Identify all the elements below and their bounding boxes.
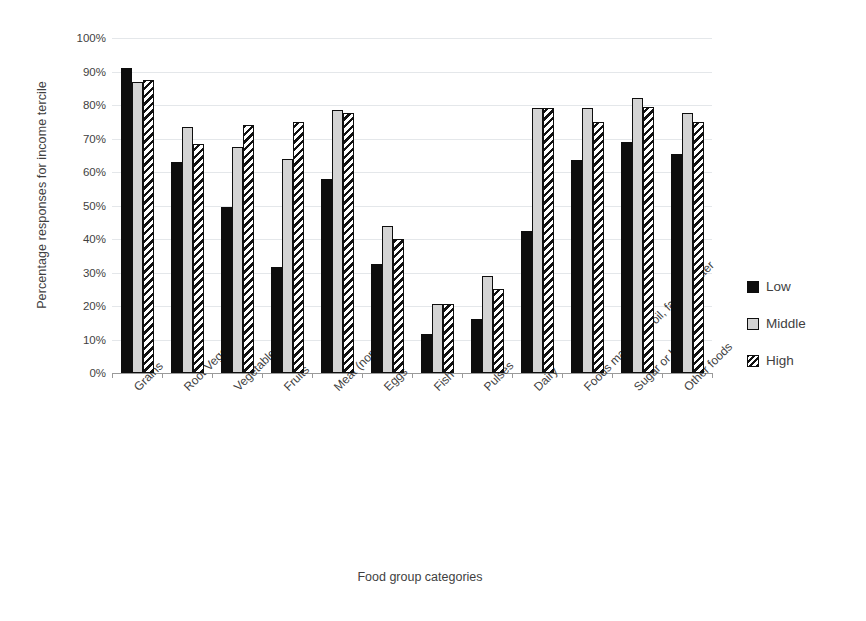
bar-group [212,38,262,373]
bar [521,231,532,373]
y-tick-label: 40% [62,233,106,245]
x-tick-mark [162,373,163,378]
y-tick-label: 90% [62,66,106,78]
bar [471,319,482,373]
bar [393,239,404,373]
y-axis-title: Percentage responses for income tercile [28,5,56,385]
y-tick-label: 30% [62,267,106,279]
y-tick-label: 20% [62,300,106,312]
bar [321,179,332,373]
bar-group [462,38,512,373]
bar [382,226,393,373]
bar [282,159,293,373]
x-tick-mark [512,373,513,378]
bar-group [662,38,712,373]
bar [693,122,704,373]
bar-group [412,38,462,373]
bar [532,108,543,373]
x-tick-mark [362,373,363,378]
x-tick-mark [712,373,713,378]
x-tick-mark [412,373,413,378]
y-tick-label: 10% [62,334,106,346]
bar [193,144,204,373]
legend-swatch-icon [747,318,759,330]
legend-swatch-icon [747,281,759,293]
bar-group [562,38,612,373]
y-tick-label: 60% [62,166,106,178]
x-tick-mark [212,373,213,378]
legend-item[interactable]: Middle [747,305,857,342]
x-tick-mark [262,373,263,378]
legend-label: High [766,353,794,368]
bar-group [262,38,312,373]
bar [132,82,143,373]
x-tick-mark [462,373,463,378]
bar [571,160,582,373]
bar-group [362,38,412,373]
y-tick-label: 0% [62,367,106,379]
bar [221,207,232,373]
x-tick-mark [312,373,313,378]
legend-label: Low [766,279,791,294]
bar [682,113,693,373]
legend-swatch-icon [747,355,759,367]
y-tick-label: 50% [62,200,106,212]
bar [332,110,343,373]
bar [543,108,554,373]
legend-label: Middle [766,316,806,331]
bar [582,108,593,373]
bar-group [512,38,562,373]
bar [232,147,243,373]
chart-canvas: Percentage responses for income tercile … [0,0,866,621]
y-tick-label: 100% [62,32,106,44]
bar [371,264,382,373]
bar-group [162,38,212,373]
y-tick-label: 70% [62,133,106,145]
bar-group [112,38,162,373]
x-tick-mark [662,373,663,378]
chart-legend: LowMiddleHigh [747,268,857,379]
x-axis-title: Food group categories [120,570,720,584]
y-tick-label: 80% [62,99,106,111]
bar [243,125,254,373]
bar [493,289,504,373]
bar [171,162,182,373]
x-tick-mark [562,373,563,378]
x-tick-mark [612,373,613,378]
bar [621,142,632,373]
legend-item[interactable]: High [747,342,857,379]
bar [121,68,132,373]
bar [293,122,304,373]
bar [671,154,682,373]
bar [593,122,604,373]
bar [421,334,432,373]
bar [482,276,493,373]
bar [632,98,643,373]
bar-group [612,38,662,373]
bar [271,267,282,373]
bar [643,107,654,373]
bar [443,304,454,373]
bar [432,304,443,373]
bar [343,113,354,373]
x-tick-mark [112,373,113,378]
bar [143,80,154,373]
bar-group [312,38,362,373]
y-axis-tick-labels: 100%90%80%70%60%50%40%30%20%10%0% [58,0,106,621]
bar [182,127,193,373]
legend-item[interactable]: Low [747,268,857,305]
